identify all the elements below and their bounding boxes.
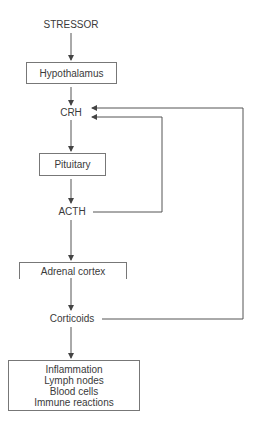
- effects-box: Inflammation Lymph nodes Blood cells Imm…: [8, 360, 140, 411]
- corticoids-label: Corticoids: [44, 313, 100, 324]
- effect-item: Lymph nodes: [44, 375, 104, 386]
- effect-item: Inflammation: [45, 364, 102, 375]
- hypothalamus-box: Hypothalamus: [26, 62, 117, 84]
- effect-item: Blood cells: [50, 386, 98, 397]
- acth-label: ACTH: [54, 206, 90, 217]
- pituitary-label: Pituitary: [54, 159, 90, 170]
- hypothalamus-label: Hypothalamus: [40, 68, 104, 79]
- crh-label: CRH: [56, 107, 86, 118]
- stressor-label: STRESSOR: [41, 19, 101, 30]
- pituitary-box: Pituitary: [39, 153, 106, 176]
- effect-item: Immune reactions: [34, 397, 113, 408]
- adrenal-cortex-label: Adrenal cortex: [41, 266, 105, 277]
- adrenal-cortex-box: Adrenal cortex: [19, 262, 127, 279]
